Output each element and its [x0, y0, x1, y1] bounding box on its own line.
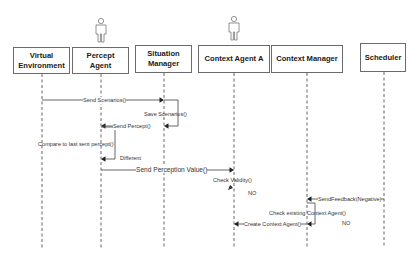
arrowhead-icon: [101, 156, 106, 162]
message-label-m7: SendFeedback(Negative): [318, 196, 381, 203]
annotation-a2: NO: [248, 190, 256, 197]
message-label-m4: Compare to last sent percept(): [38, 141, 114, 148]
participant-label: Virtual Environment: [18, 51, 64, 71]
participant-label: Scheduler: [365, 53, 402, 63]
message-label-m5: Send Perception Value(): [136, 166, 207, 173]
message-label-m3: Send Percept(): [113, 123, 151, 130]
message-label-m8: Check existing Context Agent(): [269, 210, 346, 217]
message-label-m1: Send Scenarios(): [83, 97, 126, 104]
participant-ve: Virtual Environment: [13, 47, 70, 74]
participant-sm: Situation Manager: [135, 45, 192, 73]
participant-sch: Scheduler: [360, 43, 406, 72]
diagram-lines: [0, 0, 419, 261]
message-label-m2: Save Scenarios(): [144, 111, 187, 118]
sequence-diagram: Virtual EnvironmentPercept AgentSituatio…: [0, 0, 419, 261]
arrowhead-icon: [234, 221, 239, 227]
annotation-a3: NO: [342, 220, 350, 227]
annotation-a1: Different: [120, 155, 141, 162]
arrowhead-icon: [230, 167, 235, 173]
message-label-m9: Create Context Agent(): [244, 221, 301, 228]
arrowhead-icon: [164, 123, 169, 129]
participant-label: Context Manager: [276, 54, 338, 64]
participant-caa: Context Agent A: [198, 45, 270, 73]
participant-cm: Context Manager: [271, 45, 343, 73]
participant-label: Percept Agent: [87, 51, 115, 71]
arrowhead-icon: [307, 196, 312, 202]
actor-icon: [229, 16, 239, 40]
message-label-m6: Check Validity(): [213, 177, 252, 184]
participant-label: Context Agent A: [205, 54, 264, 64]
arrowhead-icon: [307, 221, 312, 227]
actor-icon: [96, 18, 106, 42]
participant-pa: Percept Agent: [72, 47, 129, 74]
arrowhead-icon: [160, 97, 165, 103]
participant-label: Situation Manager: [147, 49, 179, 69]
arrowhead-icon: [101, 123, 106, 129]
